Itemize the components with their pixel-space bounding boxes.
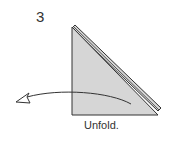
instruction-caption: Unfold.: [84, 119, 119, 131]
folded-triangle: [72, 25, 161, 115]
